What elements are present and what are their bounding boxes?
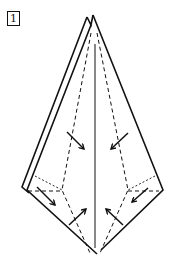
paper-outline [22,15,163,254]
left-valley-fold [62,33,91,253]
origami-diagram [0,0,181,255]
arrow-lower-right-outer [132,188,148,202]
front-left-edge [27,25,97,254]
right-hidden-fold [128,176,155,190]
right-edge [93,15,163,250]
fold-lines [28,33,159,253]
peak-edge [87,15,93,25]
fold-arrows [37,132,148,225]
arrow-lower-right-inner [106,209,123,225]
right-valley-fold [97,33,128,253]
left-hidden-fold [35,176,62,190]
